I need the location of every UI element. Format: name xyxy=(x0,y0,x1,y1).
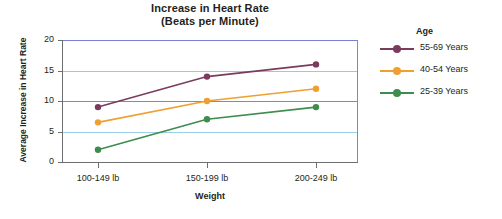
data-point-marker xyxy=(313,61,319,67)
data-point-marker xyxy=(313,86,319,92)
legend-marker-icon xyxy=(393,67,401,75)
series-line xyxy=(98,107,316,150)
x-axis-tick-label: 100-149 lb xyxy=(58,173,138,183)
y-axis-tick-label: 15 xyxy=(32,65,54,75)
x-axis-line xyxy=(62,162,358,163)
legend-marker-icon xyxy=(393,89,401,97)
y-axis-tick-label: 20 xyxy=(32,34,54,44)
data-point-marker xyxy=(313,104,319,110)
data-point-marker xyxy=(204,73,210,79)
y-axis-tick-label: 5 xyxy=(32,126,54,136)
data-point-marker xyxy=(204,116,210,122)
data-point-marker xyxy=(204,98,210,104)
series-lines xyxy=(62,40,358,162)
y-axis-tick xyxy=(58,162,62,163)
chart-subtitle: (Beats per Minute) xyxy=(60,15,360,28)
x-axis-title: Weight xyxy=(62,191,358,201)
data-point-marker xyxy=(95,119,101,125)
chart-title: Increase in Heart Rate xyxy=(60,2,360,15)
x-axis-tick xyxy=(207,163,208,168)
data-point-marker xyxy=(95,104,101,110)
x-axis-tick xyxy=(98,163,99,168)
legend-item-label: 25-39 Years xyxy=(420,86,468,96)
chart-figure: Increase in Heart Rate (Beats per Minute… xyxy=(0,0,502,219)
legend-title: Age xyxy=(416,26,433,36)
y-axis-tick-label: 0 xyxy=(32,156,54,166)
x-axis-tick xyxy=(316,163,317,168)
chart-title-block: Increase in Heart Rate (Beats per Minute… xyxy=(60,2,360,28)
legend-item-label: 55-69 Years xyxy=(420,42,468,52)
data-point-marker xyxy=(95,147,101,153)
x-axis-tick-label: 150-199 lb xyxy=(167,173,247,183)
legend-item-label: 40-54 Years xyxy=(420,64,468,74)
x-axis-tick-label: 200-249 lb xyxy=(276,173,356,183)
y-axis-tick-label: 10 xyxy=(32,95,54,105)
y-axis-title: Average Increase in Heart Rate xyxy=(18,30,28,170)
legend-marker-icon xyxy=(393,45,401,53)
plot-area: 05101520 100-149 lb150-199 lb200-249 lb xyxy=(62,40,358,162)
